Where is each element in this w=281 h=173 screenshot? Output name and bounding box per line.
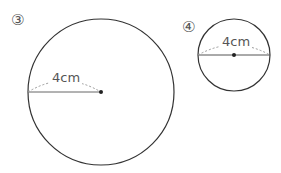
circles-diagram bbox=[0, 0, 281, 173]
circle-4 bbox=[198, 19, 270, 91]
radius-label: 4cm bbox=[50, 70, 82, 85]
diameter-label: 4cm bbox=[220, 34, 252, 49]
circle-3 bbox=[28, 19, 174, 165]
